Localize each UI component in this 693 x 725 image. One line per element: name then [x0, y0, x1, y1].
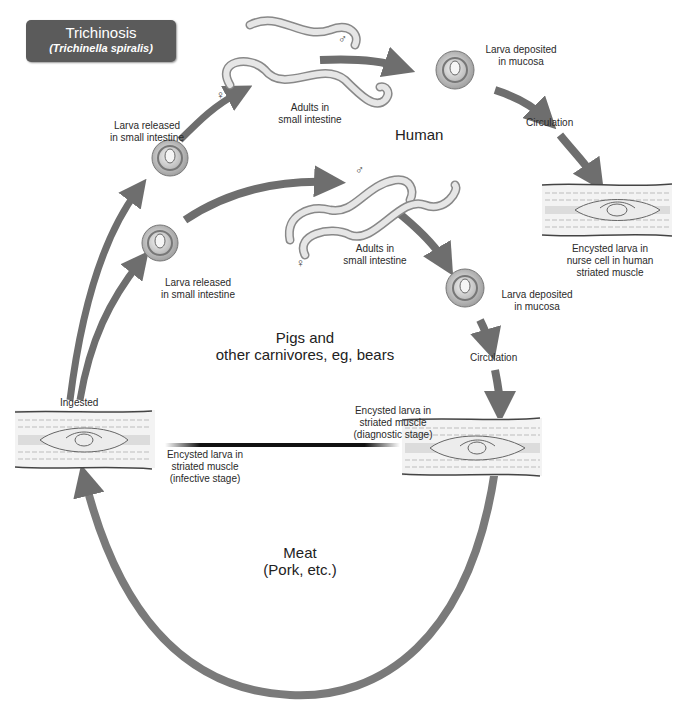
label-line: striated muscle: [348, 417, 438, 429]
label-line: Encysted larva in: [555, 243, 665, 255]
title-badge: Trichinosis (Trichinella spiralis): [26, 20, 176, 62]
muscle-human: [542, 184, 672, 236]
connecting-line: [165, 443, 400, 447]
animal-female-symbol: ♀: [296, 256, 305, 270]
label-line: in small intestine: [97, 132, 197, 144]
human-adults-label: Adults in small intestine: [270, 102, 350, 126]
label-line: Encysted larva in: [160, 449, 250, 461]
larva-coil-animal-intestine: [142, 225, 178, 261]
animal-deposited-label: Larva deposited in mucosa: [492, 289, 582, 313]
human-circulation-to-muscle-arrow: [560, 135, 595, 178]
human-larva-released-label: Larva released in small intestine: [97, 120, 197, 144]
animal-circulation-to-muscle-arrow: [495, 370, 500, 407]
human-circulation-label: Circulation: [526, 117, 573, 129]
animal-male-symbol: ♂: [355, 163, 364, 177]
infective-stage-label: Encysted larva in striated muscle (infec…: [160, 449, 250, 485]
label-line: Larva released: [148, 277, 248, 289]
label-line: Adults in: [335, 243, 415, 255]
label-line: in mucosa: [492, 301, 582, 313]
label-line: Larva deposited: [476, 44, 566, 56]
muscle-infective: [15, 410, 155, 469]
host-meat-label: Meat (Pork, etc.): [240, 544, 360, 578]
label-line: Larva deposited: [492, 289, 582, 301]
host-meat-line1: Meat: [240, 544, 360, 561]
label-line: (infective stage): [160, 473, 250, 485]
larva-coil-human-mucosa: [436, 51, 474, 89]
human-adults-to-mucosa-arrow: [320, 59, 400, 67]
label-line: striated muscle: [555, 267, 665, 279]
ingested-arrow-upper: [70, 190, 138, 400]
human-encysted-label: Encysted larva in nurse cell in human st…: [555, 243, 665, 279]
animal-circulation-label: Circulation: [470, 352, 517, 364]
host-human-label: Human: [395, 126, 443, 143]
host-pigs-line2: other carnivores, eg, bears: [205, 346, 405, 363]
diagnostic-stage-label: Encysted larva in striated muscle (diagn…: [348, 405, 438, 441]
larva-coil-animal-mucosa: [446, 269, 484, 307]
label-line: small intestine: [270, 114, 350, 126]
host-pigs-line1: Pigs and: [205, 329, 405, 346]
host-meat-line2: (Pork, etc.): [240, 561, 360, 578]
title-species: (Trichinella spiralis): [26, 41, 176, 55]
label-line: in small intestine: [148, 289, 248, 301]
label-line: Adults in: [270, 102, 350, 114]
label-line: striated muscle: [160, 461, 250, 473]
human-mucosa-to-circulation-arrow: [495, 90, 545, 118]
label-line: in mucosa: [476, 56, 566, 68]
label-line: nurse cell in human: [555, 255, 665, 267]
human-female-symbol: ♀: [216, 88, 225, 102]
label-line: (diagnostic stage): [348, 429, 438, 441]
title-name: Trichinosis: [26, 24, 176, 41]
animal-adults-label: Adults in small intestine: [335, 243, 415, 267]
animal-mucosa-to-circulation-arrow: [480, 320, 490, 345]
label-line: small intestine: [335, 255, 415, 267]
human-deposited-label: Larva deposited in mucosa: [476, 44, 566, 68]
ingested-label: Ingested: [60, 397, 98, 409]
larva-coil-human-intestine: [152, 140, 188, 176]
label-line: Encysted larva in: [348, 405, 438, 417]
human-male-symbol: ♂: [338, 32, 347, 46]
host-pigs-label: Pigs and other carnivores, eg, bears: [205, 329, 405, 363]
label-line: Larva released: [97, 120, 197, 132]
animal-larva-released-label: Larva released in small intestine: [148, 277, 248, 301]
meat-arrow: [85, 470, 495, 695]
ingested-arrow-lower: [80, 262, 140, 400]
